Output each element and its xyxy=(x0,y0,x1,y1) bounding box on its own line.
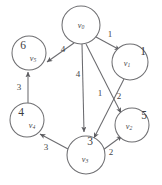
edge-weight-v3-v4: 3 xyxy=(44,142,49,152)
edge-v3-v2: 2 xyxy=(103,136,122,157)
node-v4[interactable]: v4 4 xyxy=(10,103,44,137)
edge-v4-v5: 3 xyxy=(17,72,28,103)
node-value-v3: 3 xyxy=(87,135,93,147)
edge-v0-v5: 4 xyxy=(47,43,74,62)
node-v2[interactable]: v2 5 xyxy=(115,108,149,142)
edge-weight-v0-v5: 4 xyxy=(61,44,66,54)
edge-weight-v0-v3: 4 xyxy=(76,69,81,79)
edge-v0-v3: 4 xyxy=(76,44,84,132)
node-v0[interactable]: v0 xyxy=(62,6,100,44)
node-value-v2: 5 xyxy=(141,109,147,121)
edge-weight-v3-v2: 2 xyxy=(109,147,114,157)
edge-weight-v4-v5: 3 xyxy=(17,82,22,92)
node-value-v5: 6 xyxy=(20,39,26,51)
edge-weight-v0-v2: 1 xyxy=(98,88,103,98)
graph-canvas: 1 4 4 1 2 xyxy=(0,0,162,185)
node-value-v4: 4 xyxy=(18,106,24,118)
node-layer: v0 v1 1 v5 6 v4 4 xyxy=(10,6,149,174)
node-circle-v4[interactable] xyxy=(10,103,44,137)
edge-weight-v1-v3: 2 xyxy=(117,91,122,101)
edge-v3-v4: 3 xyxy=(40,134,68,152)
node-v1[interactable]: v1 1 xyxy=(112,44,148,80)
node-value-v1: 1 xyxy=(140,45,146,57)
edge-line-v0-v3 xyxy=(82,44,84,132)
edge-weight-v0-v1: 1 xyxy=(108,29,113,39)
node-circle-v3[interactable] xyxy=(67,136,105,174)
node-v5[interactable]: v5 6 xyxy=(12,36,46,70)
edge-v0-v1: 1 xyxy=(96,29,120,50)
graph-diagram: 1 4 4 1 2 xyxy=(0,0,162,185)
node-v3[interactable]: v3 3 xyxy=(67,135,105,174)
